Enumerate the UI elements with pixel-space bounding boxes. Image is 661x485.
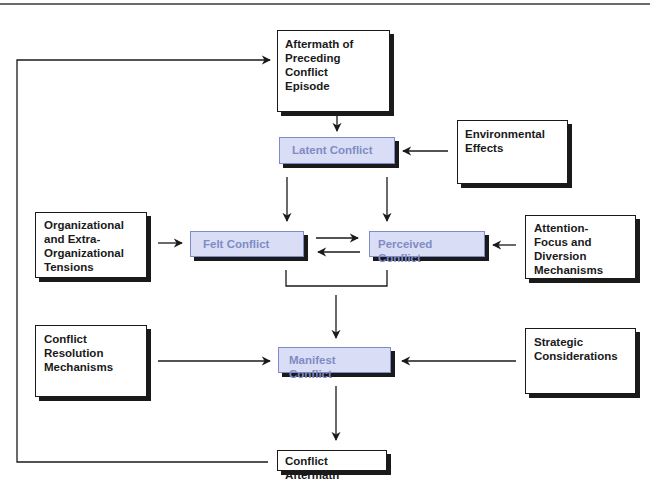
node-label: Felt Conflict bbox=[203, 237, 291, 251]
node-latent-conflict: Latent Conflict bbox=[279, 137, 395, 164]
node-organizational-tensions: Organizational and Extra- Organizational… bbox=[35, 212, 147, 278]
node-label: Manifest Conflict bbox=[289, 353, 380, 381]
node-label: Latent Conflict bbox=[292, 143, 382, 157]
node-label: Environmental Effects bbox=[465, 127, 560, 155]
node-label: Perceived Conflict bbox=[378, 237, 476, 265]
node-conflict-resolution: Conflict Resolution Mechanisms bbox=[35, 325, 147, 397]
node-perceived-conflict: Perceived Conflict bbox=[369, 231, 485, 257]
node-aftermath-preceding: Aftermath of Preceding Conflict Episode bbox=[277, 30, 390, 112]
node-manifest-conflict: Manifest Conflict bbox=[278, 347, 391, 373]
node-label: Attention- Focus and Diversion Mechanism… bbox=[534, 221, 627, 277]
node-label: Aftermath of Preceding Conflict Episode bbox=[285, 37, 382, 93]
node-environmental-effects: Environmental Effects bbox=[457, 120, 568, 184]
node-label: Conflict Aftermath bbox=[285, 454, 379, 482]
node-felt-conflict: Felt Conflict bbox=[190, 231, 304, 257]
node-label: Organizational and Extra- Organizational… bbox=[44, 218, 138, 274]
bracket-felt-perceived bbox=[286, 270, 387, 286]
node-label: Conflict Resolution Mechanisms bbox=[44, 332, 138, 374]
node-conflict-aftermath: Conflict Aftermath bbox=[277, 450, 387, 471]
node-attention-focus: Attention- Focus and Diversion Mechanism… bbox=[525, 215, 636, 279]
node-strategic-considerations: Strategic Considerations bbox=[525, 328, 636, 394]
node-label: Strategic Considerations bbox=[534, 335, 627, 363]
